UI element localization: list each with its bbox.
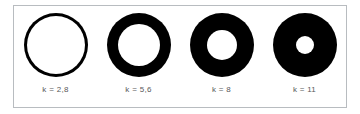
ring-cell-1 (14, 6, 97, 84)
ring-label-row: k = 2,8 k = 5,6 k = 8 k = 11 (14, 84, 346, 108)
annulus-hole-4 (296, 36, 314, 54)
annulus-hole-3 (207, 30, 237, 60)
ring-label-1: k = 2,8 (14, 84, 97, 96)
annulus-shape-4 (273, 13, 337, 77)
ring-cell-3 (180, 6, 263, 84)
figure-frame: k = 2,8 k = 5,6 k = 8 k = 11 (13, 5, 347, 108)
ring-label-3: k = 8 (180, 84, 263, 96)
annulus-hole-2 (118, 24, 160, 66)
ring-cell-4 (263, 6, 346, 84)
ring-diagram-row (14, 6, 346, 84)
ring-label-2: k = 5,6 (97, 84, 180, 96)
annulus-shape-3 (190, 13, 254, 77)
annulus-shape-2 (107, 13, 171, 77)
ring-label-4: k = 11 (263, 84, 346, 96)
ring-cell-2 (97, 6, 180, 84)
annulus-shape-1 (24, 13, 88, 77)
annulus-hole-1 (27, 16, 85, 74)
